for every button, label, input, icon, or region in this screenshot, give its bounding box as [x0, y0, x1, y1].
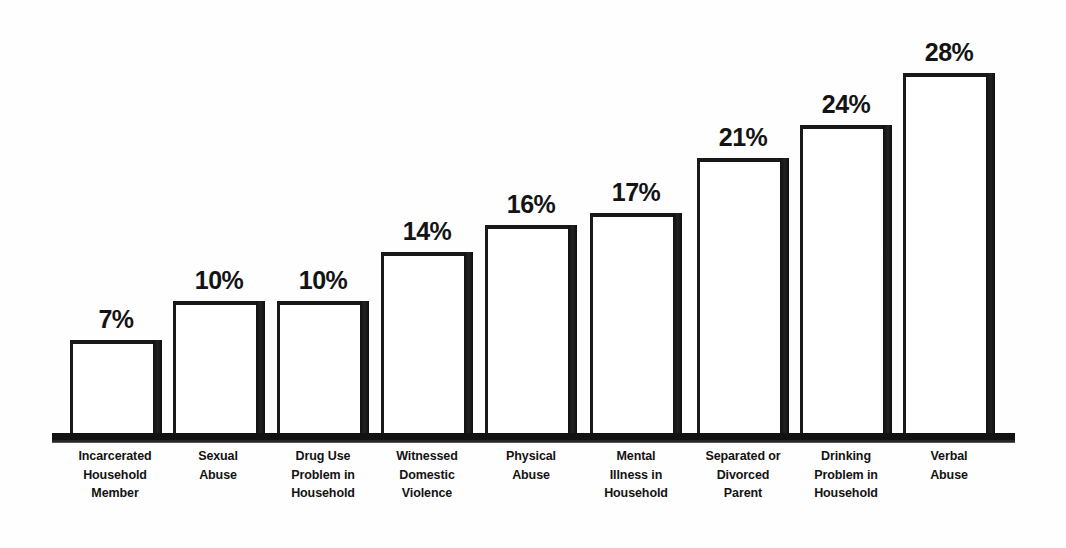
bar-value-label: 17% [612, 178, 661, 207]
axis-baseline [52, 433, 1015, 442]
bar-group: 10% [277, 301, 369, 440]
bar-group: 10% [173, 301, 265, 440]
category-label-line: Drug Use [268, 447, 378, 466]
category-label-line: Violence [372, 484, 482, 503]
bar-value-label: 16% [507, 190, 556, 219]
category-label: Sexual Abuse [165, 447, 271, 484]
category-label: Mental Illness in Household [583, 447, 689, 503]
category-label: Separated or Divorced Parent [686, 447, 800, 503]
bar-chart: 7% 10% 10% 14% 16% 17% 21% [0, 0, 1066, 548]
category-label-line: Verbal [896, 447, 1002, 466]
category-label: Verbal Abuse [896, 447, 1002, 484]
bar[interactable] [903, 73, 995, 440]
category-label-line: Problem in [791, 466, 901, 485]
category-label-line: Incarcerated [60, 447, 170, 466]
bar-value-label: 7% [98, 305, 133, 334]
bar[interactable] [381, 252, 473, 440]
category-label: Witnessed Domestic Violence [372, 447, 482, 503]
category-label-line: Problem in [268, 466, 378, 485]
category-label-line: Abuse [478, 466, 584, 485]
category-label-line: Witnessed [372, 447, 482, 466]
category-label: Drinking Problem in Household [791, 447, 901, 503]
category-label-line: Illness in [583, 466, 689, 485]
bar-value-label: 21% [719, 123, 768, 152]
bar-group: 17% [590, 213, 682, 440]
bar[interactable] [70, 340, 162, 440]
bar-group: 14% [381, 252, 473, 440]
bar-value-label: 10% [195, 266, 244, 295]
bar[interactable] [697, 158, 789, 440]
bar-group: 24% [800, 125, 892, 440]
category-label: Incarcerated Household Member [60, 447, 170, 503]
bar-group: 7% [70, 340, 162, 440]
bar-value-label: 10% [299, 266, 348, 295]
category-label-line: Household [583, 484, 689, 503]
category-label-line: Separated or [686, 447, 800, 466]
category-label-line: Abuse [165, 466, 271, 485]
category-label-line: Physical [478, 447, 584, 466]
category-label: Drug Use Problem in Household [268, 447, 378, 503]
bar[interactable] [485, 225, 577, 440]
plot-area: 7% 10% 10% 14% 16% 17% 21% [0, 0, 1066, 440]
category-label-line: Mental [583, 447, 689, 466]
bar[interactable] [173, 301, 265, 440]
category-label-line: Sexual [165, 447, 271, 466]
bar-value-label: 14% [403, 217, 452, 246]
category-label-line: Household [791, 484, 901, 503]
bar-value-label: 28% [925, 38, 974, 67]
bar-group: 16% [485, 225, 577, 440]
bar[interactable] [590, 213, 682, 440]
category-label-line: Parent [686, 484, 800, 503]
category-label-line: Household [60, 466, 170, 485]
category-label-line: Drinking [791, 447, 901, 466]
bar[interactable] [800, 125, 892, 440]
bar-group: 21% [697, 158, 789, 440]
bar[interactable] [277, 301, 369, 440]
category-label: Physical Abuse [478, 447, 584, 484]
category-labels: Incarcerated Household Member Sexual Abu… [0, 447, 1066, 542]
category-label-line: Divorced [686, 466, 800, 485]
bar-group: 28% [903, 73, 995, 440]
category-label-line: Member [60, 484, 170, 503]
bar-value-label: 24% [822, 90, 871, 119]
category-label-line: Abuse [896, 466, 1002, 485]
category-label-line: Household [268, 484, 378, 503]
category-label-line: Domestic [372, 466, 482, 485]
